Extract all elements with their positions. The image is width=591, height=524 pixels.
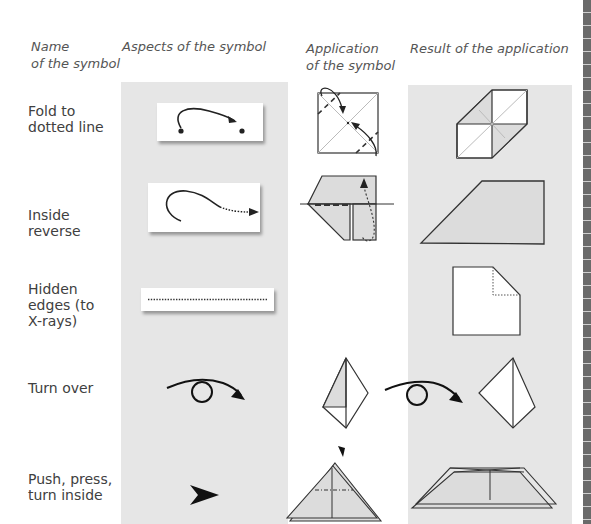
header-name-of-symbol: Name of the symbol (31, 38, 120, 72)
header-result: Result of the application (410, 40, 569, 57)
row-name-turn-over: Turn over (28, 380, 93, 396)
fold-to-dotted-line-icon (157, 103, 263, 141)
page-edge-strip (583, 0, 591, 524)
row-name-inside-reverse: Inside reverse (28, 207, 81, 239)
result-hidden-edges-diagram (452, 265, 524, 337)
header-aspects: Aspects of the symbol (122, 38, 266, 55)
turn-over-icon (165, 375, 250, 415)
row-name-line: Fold to (28, 103, 104, 119)
inside-reverse-icon (148, 183, 260, 232)
application-push-triangle-diagram (287, 460, 387, 524)
row-name-line: Hidden (28, 281, 94, 297)
row-name-line: dotted line (28, 119, 104, 135)
header-line: Application (306, 40, 395, 57)
row-name-push-press: Push, press, turn inside (28, 471, 112, 503)
row-name-hidden-edges: Hidden edges (to X-rays) (28, 281, 94, 329)
header-line: Name (31, 38, 120, 55)
row-name-line: Inside (28, 207, 81, 223)
header-line: of the symbol (31, 55, 120, 72)
result-inside-reverse-diagram (420, 178, 550, 248)
result-push-diagram (412, 460, 562, 524)
hidden-edges-dotted-line-icon (141, 288, 274, 311)
application-turn-over-kite-diagram (320, 355, 380, 435)
result-fold-diagram (457, 88, 537, 170)
row-name-line: X-rays) (28, 313, 94, 329)
application-inside-reverse-diagram (300, 170, 395, 250)
header-line: of the symbol (306, 57, 395, 74)
row-name-line: Push, press, (28, 471, 112, 487)
push-arrowhead-icon (190, 485, 220, 505)
row-name-line: edges (to (28, 297, 94, 313)
row-name-line: turn inside (28, 487, 112, 503)
push-arrowhead-small-icon (338, 446, 346, 458)
turn-over-arrow-icon (383, 378, 465, 418)
row-name-line: reverse (28, 223, 81, 239)
row-name-fold-to-dotted-line: Fold to dotted line (28, 103, 104, 135)
header-application: Application of the symbol (306, 40, 395, 74)
application-fold-square-diagram (316, 90, 391, 160)
result-turn-over-kite-diagram (478, 356, 538, 432)
row-name-line: Turn over (28, 380, 93, 396)
